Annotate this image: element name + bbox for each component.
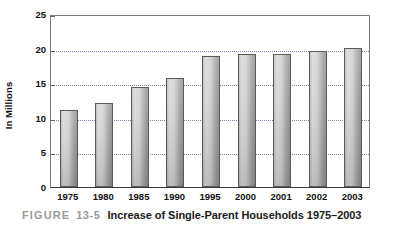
y-tick-label-15: 15 xyxy=(22,79,46,89)
y-axis-title-text: In Millions xyxy=(4,81,15,129)
figure-container: In Millions 0510152025 19751980198519901… xyxy=(0,0,393,228)
y-tick-label-10: 10 xyxy=(22,114,46,124)
caption-figure-number: 13-5 xyxy=(76,209,100,221)
y-tick-mark-10 xyxy=(51,120,55,121)
y-tick-mark-20 xyxy=(51,51,55,52)
bar-2001 xyxy=(273,54,291,187)
y-tick-mark-5 xyxy=(51,154,55,155)
y-tick-mark-25 xyxy=(51,16,55,17)
caption-figure-word: FIGURE xyxy=(22,209,70,221)
y-tick-mark-15 xyxy=(51,85,55,86)
bar-2000 xyxy=(238,54,256,187)
bar-1975 xyxy=(60,110,78,188)
bar-1995 xyxy=(202,56,220,187)
y-tick-label-0: 0 xyxy=(22,183,46,193)
plot-area xyxy=(50,15,370,188)
y-tick-label-25: 25 xyxy=(22,10,46,20)
figure-caption: FIGURE 13-5 Increase of Single-Parent Ho… xyxy=(22,207,382,223)
y-tick-label-5: 5 xyxy=(22,149,46,159)
bar-2003 xyxy=(344,48,362,187)
bar-1980 xyxy=(95,103,113,187)
bar-1990 xyxy=(166,78,184,187)
bar-2002 xyxy=(309,51,327,187)
y-axis-title: In Millions xyxy=(2,60,16,150)
x-tick-label-2003: 2003 xyxy=(330,192,374,202)
caption-figure-title: Increase of Single-Parent Households 197… xyxy=(108,209,362,221)
y-tick-label-20: 20 xyxy=(22,45,46,55)
bar-1985 xyxy=(131,87,149,187)
